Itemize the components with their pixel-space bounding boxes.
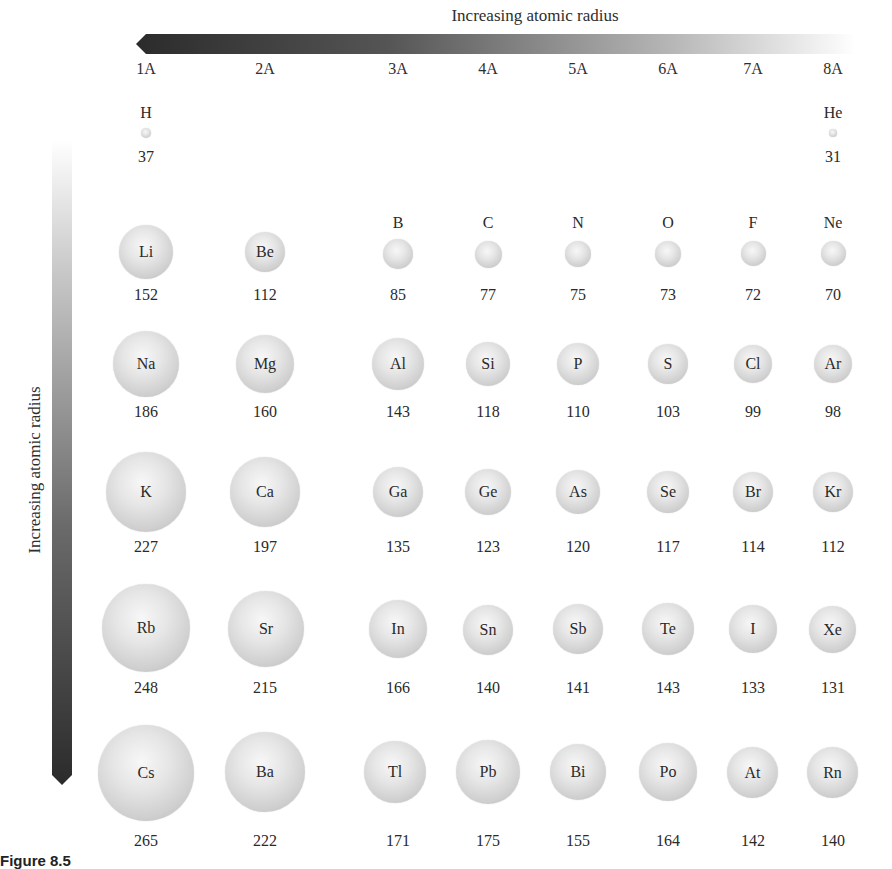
atom-sphere-k: K [106, 452, 186, 532]
atom-sphere-f [741, 241, 766, 266]
atomic-radius-o: 73 [643, 286, 693, 304]
atomic-radius-xe: 131 [808, 679, 858, 697]
element-symbol-n: N [558, 214, 598, 232]
atom-sphere-li: Li [119, 225, 173, 279]
atomic-radius-si: 118 [463, 403, 513, 421]
atomic-radius-tl: 171 [373, 832, 423, 850]
atom-sphere-cs: Cs [98, 725, 194, 821]
atomic-radius-cs: 265 [121, 832, 171, 850]
horizontal-arrow-label: Increasing atomic radius [420, 6, 650, 26]
atomic-radius-bi: 155 [553, 832, 603, 850]
group-header-4a: 4A [463, 60, 513, 78]
atomic-radius-s: 103 [643, 403, 693, 421]
left-arrow-icon [136, 34, 856, 54]
atom-sphere-ba: Ba [225, 732, 305, 812]
atom-sphere-sb: Sb [553, 604, 603, 654]
atomic-radius-na: 186 [121, 403, 171, 421]
atomic-radius-f: 72 [728, 286, 778, 304]
vertical-arrow-label: Increasing atomic radius [25, 386, 45, 553]
atomic-radius-n: 75 [553, 286, 603, 304]
atom-sphere-n [565, 241, 591, 267]
atom-sphere-he [829, 129, 837, 137]
group-header-3a: 3A [373, 60, 423, 78]
atomic-radius-po: 164 [643, 832, 693, 850]
atom-sphere-po: Po [639, 743, 697, 801]
atomic-radius-br: 114 [728, 538, 778, 556]
atom-sphere-sr: Sr [228, 591, 304, 667]
atomic-radius-ba: 222 [240, 832, 290, 850]
atom-sphere-br: Br [733, 472, 773, 512]
group-header-6a: 6A [643, 60, 693, 78]
atom-sphere-tl: Tl [364, 741, 426, 803]
atomic-radius-se: 117 [643, 538, 693, 556]
atomic-radius-sr: 215 [240, 679, 290, 697]
element-symbol-o: O [648, 214, 688, 232]
atomic-radius-rb: 248 [121, 679, 171, 697]
atom-sphere-kr: Kr [813, 472, 853, 512]
group-header-5a: 5A [553, 60, 603, 78]
element-symbol-he: He [813, 104, 853, 122]
atom-sphere-mg: Mg [236, 335, 294, 393]
atom-sphere-ca: Ca [230, 457, 300, 527]
atomic-radius-as: 120 [553, 538, 603, 556]
atom-sphere-i: I [729, 605, 777, 653]
atom-sphere-at: At [727, 747, 778, 798]
atomic-radius-kr: 112 [808, 538, 858, 556]
atomic-radius-li: 152 [121, 286, 171, 304]
atom-sphere-al: Al [372, 338, 424, 390]
atomic-radius-he: 31 [808, 148, 858, 166]
atomic-radius-al: 143 [373, 403, 423, 421]
atom-sphere-rb: Rb [102, 584, 190, 672]
atom-sphere-pb: Pb [456, 740, 520, 804]
atomic-radius-rn: 140 [808, 832, 858, 850]
group-header-1a: 1A [121, 60, 171, 78]
atomic-radius-b: 85 [373, 286, 423, 304]
atomic-radius-i: 133 [728, 679, 778, 697]
atomic-radius-sn: 140 [463, 679, 513, 697]
atomic-radius-te: 143 [643, 679, 693, 697]
atom-sphere-ne [821, 241, 846, 266]
group-header-8a: 8A [808, 60, 858, 78]
atomic-radius-h: 37 [121, 148, 171, 166]
atomic-radius-k: 227 [121, 538, 171, 556]
element-symbol-f: F [733, 214, 773, 232]
atom-sphere-rn: Rn [807, 747, 858, 798]
figure-caption: Figure 8.5 [0, 852, 71, 869]
atomic-radius-be: 112 [240, 286, 290, 304]
atom-sphere-te: Te [642, 603, 694, 655]
atom-sphere-b [383, 239, 413, 269]
atomic-radius-ar: 98 [808, 403, 858, 421]
atom-sphere-cl: Cl [734, 345, 772, 383]
atomic-radius-ne: 70 [808, 286, 858, 304]
atom-sphere-bi: Bi [550, 744, 606, 800]
atomic-radius-c: 77 [463, 286, 513, 304]
atom-sphere-s: S [648, 344, 688, 384]
atom-sphere-ga: Ga [373, 467, 423, 517]
atom-sphere-be: Be [245, 232, 285, 272]
atom-sphere-ge: Ge [465, 469, 511, 515]
atomic-radius-at: 142 [728, 832, 778, 850]
element-symbol-h: H [126, 104, 166, 122]
atomic-radius-mg: 160 [240, 403, 290, 421]
atom-sphere-o [655, 241, 681, 267]
atom-sphere-sn: Sn [463, 605, 513, 655]
element-symbol-c: C [468, 214, 508, 232]
group-header-7a: 7A [728, 60, 778, 78]
atom-sphere-na: Na [113, 331, 179, 397]
atom-sphere-se: Se [647, 471, 689, 513]
atomic-radius-ge: 123 [463, 538, 513, 556]
element-symbol-b: B [378, 214, 418, 232]
atomic-radius-pb: 175 [463, 832, 513, 850]
atom-sphere-as: As [556, 470, 600, 514]
element-symbol-ne: Ne [813, 214, 853, 232]
atomic-radius-in: 166 [373, 679, 423, 697]
atom-sphere-si: Si [466, 342, 510, 386]
atomic-radius-ga: 135 [373, 538, 423, 556]
group-header-2a: 2A [240, 60, 290, 78]
atomic-radius-ca: 197 [240, 538, 290, 556]
atom-sphere-c [475, 241, 502, 268]
atom-sphere-ar: Ar [814, 345, 852, 383]
atom-sphere-in: In [369, 600, 427, 658]
atomic-radius-sb: 141 [553, 679, 603, 697]
atom-sphere-p: P [557, 343, 599, 385]
